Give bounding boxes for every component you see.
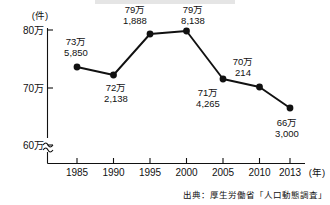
- y-tick-label-70: 70万: [23, 83, 44, 94]
- data-label-2010-line2: 214: [235, 67, 251, 78]
- data-point-2005[interactable]: [220, 76, 227, 83]
- y-axis-unit-label: (件): [32, 10, 48, 21]
- data-label-1990-line1: 72万: [106, 82, 127, 93]
- data-label-2000-line1: 79万: [183, 4, 204, 15]
- data-label-2013-line2: 3,000: [275, 128, 299, 139]
- x-tick-label-1995: 1995: [139, 167, 162, 178]
- y-tick-label-60: 60万: [23, 140, 44, 151]
- data-point-1985[interactable]: [74, 64, 81, 71]
- data-label-1990-line2: 2,138: [104, 93, 128, 104]
- x-tick-label-2000: 2000: [175, 167, 198, 178]
- data-label-1995-line1: 79万: [125, 4, 146, 15]
- data-point-1990[interactable]: [110, 72, 117, 79]
- x-tick-label-2010: 2010: [248, 167, 271, 178]
- clipped-title-strip: [95, 0, 235, 4]
- data-label-2010-line1: 70万: [233, 56, 254, 67]
- data-point-1995[interactable]: [147, 31, 154, 38]
- data-label-2013-line1: 66万: [277, 117, 298, 128]
- chart-container: (件) 80万 70万 60万 1985 1990 1995 2000 2005…: [0, 0, 330, 205]
- data-label-2005-line1: 71万: [198, 87, 219, 98]
- data-label-2000-line2: 8,138: [181, 15, 205, 26]
- data-label-1985-line1: 73万: [66, 36, 87, 47]
- x-tick-label-2013: 2013: [279, 167, 302, 178]
- x-tick-label-1985: 1985: [66, 167, 89, 178]
- data-label-1995-line2: 1,888: [123, 15, 147, 26]
- data-label-2005-line2: 4,265: [196, 98, 220, 109]
- x-axis-unit-label: (年): [309, 167, 325, 178]
- y-tick-label-80: 80万: [23, 25, 44, 36]
- axis-break-icon: [43, 148, 53, 152]
- source-note: 出典：厚生労働省「人口動態調査」: [183, 190, 327, 200]
- x-tick-label-2005: 2005: [212, 167, 235, 178]
- line-chart: (件) 80万 70万 60万 1985 1990 1995 2000 2005…: [0, 0, 330, 205]
- data-point-2010[interactable]: [256, 84, 263, 91]
- x-tick-label-1990: 1990: [102, 167, 125, 178]
- data-point-2013[interactable]: [287, 105, 294, 112]
- data-label-1985-line2: 5,850: [64, 47, 88, 58]
- data-point-2000[interactable]: [183, 28, 190, 35]
